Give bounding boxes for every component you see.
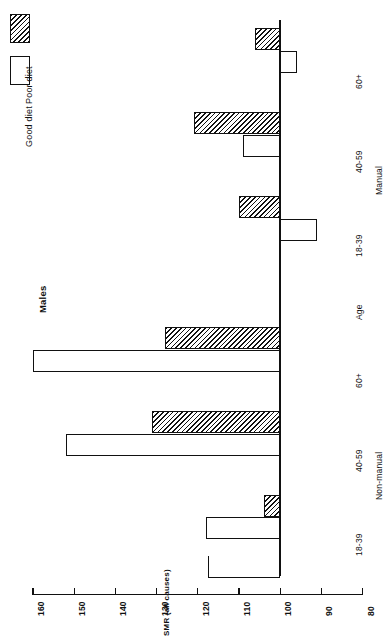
value-axis-title: SMR (all causes): [163, 569, 171, 636]
baseline-100: [279, 20, 281, 576]
value-axis-tick: [321, 588, 322, 594]
bar-manual-40-59-good: [243, 135, 280, 157]
group-label-manual: Manual: [375, 166, 384, 195]
value-axis-tick: [74, 588, 75, 594]
value-axis-tick-label: 120: [202, 601, 211, 616]
bar-non-manual-60+-good: [33, 350, 280, 372]
category-label-manual-40-59: 40-59: [355, 150, 364, 173]
bar-non-manual-18-39-poor: [264, 495, 280, 517]
bar-manual-18-39-good: [280, 219, 317, 241]
bar-non-manual-40-59-good: [66, 434, 280, 456]
bar-non-manual-40-59-poor: [152, 411, 280, 433]
value-axis-tick-label: 140: [119, 601, 128, 616]
value-axis-tick: [280, 588, 281, 594]
category-axis-label: Age: [355, 304, 364, 320]
value-axis: [32, 594, 363, 595]
value-axis-tick: [32, 588, 33, 594]
value-axis-tick: [115, 588, 116, 594]
bar-non-manual-60+-poor: [165, 327, 280, 349]
axis-bracket: [208, 556, 280, 578]
value-axis-tick: [362, 588, 363, 594]
value-axis-tick-label: 150: [78, 601, 87, 616]
value-axis-tick-label: 110: [243, 602, 252, 616]
value-axis-tick: [238, 588, 239, 594]
bar-manual-40-59-poor: [194, 112, 281, 134]
value-axis-tick-label: 80: [367, 606, 376, 616]
value-axis-tick-label: 160: [37, 601, 46, 616]
chart-figure: Good diet Poor diet Males 16015014013012…: [0, 0, 390, 637]
category-label-nonmanual-18-39: 18-39: [355, 533, 364, 556]
value-axis-tick-label: 90: [325, 606, 334, 616]
bar-manual-60+-good: [280, 51, 296, 73]
category-label-manual-60plus: 60+: [355, 74, 364, 89]
category-label-nonmanual-40-59: 40-59: [355, 449, 364, 472]
bar-non-manual-18-39-good: [206, 517, 280, 539]
category-label-manual-18-39: 18-39: [355, 234, 364, 257]
plot-area: [0, 0, 390, 637]
value-axis-tick: [197, 588, 198, 594]
bar-manual-18-39-poor: [239, 196, 280, 218]
group-label-nonmanual: Non-manual: [375, 452, 384, 500]
value-axis-tick-label: 100: [284, 601, 293, 616]
bar-manual-60+-poor: [255, 28, 280, 50]
value-axis-tick: [156, 588, 157, 594]
category-label-nonmanual-60plus: 60+: [355, 373, 364, 388]
